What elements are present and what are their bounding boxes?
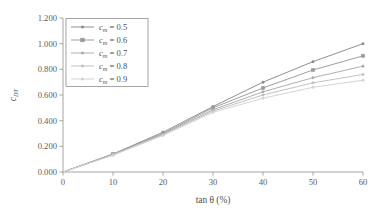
y-tick-label: 0.400 (38, 116, 57, 126)
series-0-9 (63, 79, 364, 172)
series-marker (262, 94, 265, 97)
series-marker (362, 79, 365, 82)
x-axis-ticks: 0102030405060 (61, 172, 367, 187)
series-marker (262, 81, 265, 84)
y-axis-ticks: 0.0000.2000.4000.6000.8001.0001.200 (38, 13, 63, 177)
legend-swatch-marker (81, 78, 84, 81)
series-marker (312, 60, 315, 63)
y-tick-label: 1.000 (38, 39, 57, 49)
y-tick-label: 1.200 (38, 13, 57, 23)
series-marker (112, 154, 115, 157)
series-marker (361, 54, 364, 57)
x-tick-label: 30 (209, 177, 218, 187)
legend-swatch-marker (81, 38, 85, 42)
legend-swatch-marker (81, 26, 84, 29)
x-tick-label: 40 (259, 177, 268, 187)
series-marker (311, 68, 314, 71)
x-tick-label: 10 (109, 177, 118, 187)
series-marker (312, 82, 315, 85)
series-marker (262, 91, 265, 94)
x-tick-label: 0 (61, 177, 65, 187)
chart-figure: 0.0000.2000.4000.6000.8001.0001.200 0102… (0, 0, 376, 211)
series-marker (312, 86, 315, 89)
x-tick-label: 20 (159, 177, 168, 187)
x-tick-label: 60 (359, 177, 368, 187)
y-tick-label: 0.000 (38, 167, 57, 177)
y-tick-label: 0.200 (38, 141, 57, 151)
series-marker (312, 76, 315, 79)
legend-swatch-marker (81, 65, 84, 68)
series-marker (362, 42, 365, 45)
series-line (63, 80, 363, 172)
series-marker (362, 65, 365, 68)
chart-legend: cm = 0.5cm = 0.6cm = 0.7cm = 0.8cm = 0.9 (66, 19, 148, 87)
series-marker (262, 97, 265, 100)
legend-swatch-marker (81, 52, 84, 55)
x-tick-label: 50 (309, 177, 318, 187)
y-tick-label: 0.600 (38, 90, 57, 100)
line-chart: 0.0000.2000.4000.6000.8001.0001.200 0102… (0, 0, 376, 211)
series-marker (162, 134, 165, 137)
series-marker (362, 73, 365, 76)
x-axis-title: tan θ (%) (196, 195, 231, 206)
series-marker (212, 111, 215, 114)
y-axis-title: cDT (8, 88, 19, 101)
y-tick-label: 0.800 (38, 64, 57, 74)
series-marker (261, 86, 264, 89)
